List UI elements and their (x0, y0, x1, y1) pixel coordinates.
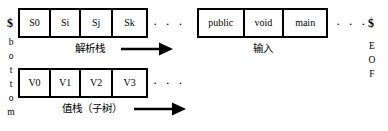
parse-stack-cell: S0 (20, 10, 51, 36)
bottom-label-letter-m: m (5, 108, 17, 118)
value-stack-ellipsis: · · · (153, 76, 185, 89)
diagram-canvas: $ b o t t o m S0 Si Sj Sk · · · 解析栈 V0 V… (0, 0, 388, 131)
value-stack-row: V0 V1 V2 V3 (18, 68, 148, 98)
parse-stack-cell: Sk (113, 10, 146, 36)
parse-stack-ellipsis: · · · (153, 17, 185, 30)
value-stack-cell: V1 (51, 70, 81, 96)
parse-stack-direction-arrow (121, 41, 173, 57)
value-stack-caption: 值栈（子树） (44, 103, 140, 114)
bottom-label-letter-t2: t (5, 80, 17, 90)
eof-label-letter-f: F (366, 70, 378, 80)
input-end-dollar-marker: $ (368, 17, 374, 29)
input-tape-caption: 输入 (230, 43, 296, 54)
value-stack-direction-arrow (134, 101, 186, 117)
eof-label-letter-o: O (366, 56, 378, 66)
stack-bottom-dollar-marker: $ (7, 17, 13, 29)
value-stack-cell: V0 (20, 70, 51, 96)
parse-stack-cell: Sj (81, 10, 113, 36)
input-tape-ellipsis: · · · (336, 17, 368, 30)
input-tape-cell: public (199, 10, 245, 36)
bottom-label-letter-b: b (5, 38, 17, 48)
eof-label-letter-e: E (366, 42, 378, 52)
value-stack-cell: V3 (113, 70, 146, 96)
bottom-label-letter-o2: o (5, 94, 17, 104)
input-tape-row: public void main (197, 8, 328, 38)
parse-stack-cell: Si (51, 10, 81, 36)
value-stack-cell: V2 (81, 70, 113, 96)
input-tape-cell: void (245, 10, 285, 36)
bottom-label-letter-t1: t (5, 66, 17, 76)
bottom-label-letter-o1: o (5, 52, 17, 62)
input-tape-cell: main (284, 10, 326, 36)
parse-stack-row: S0 Si Sj Sk (18, 8, 148, 38)
parse-stack-caption: 解析栈 (55, 43, 125, 54)
